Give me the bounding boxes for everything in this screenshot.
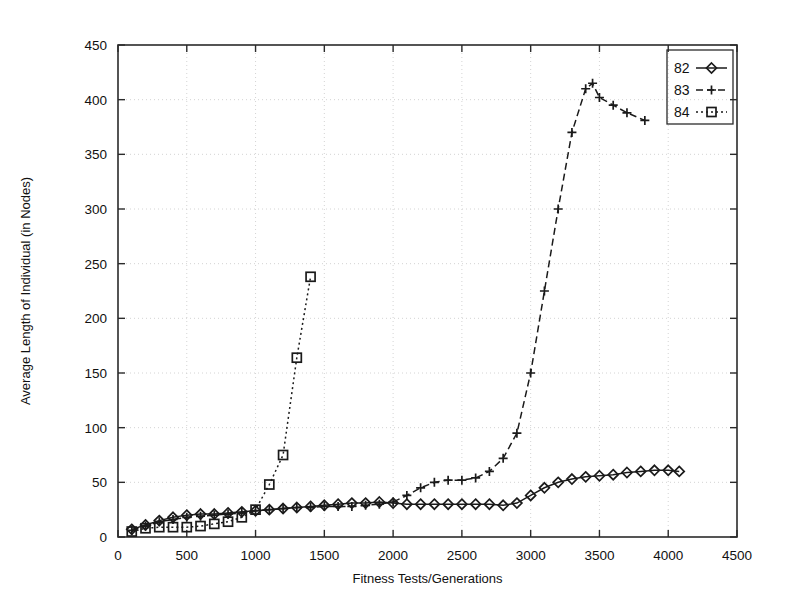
x-tick-label: 4000 xyxy=(653,548,683,563)
legend-label-83: 83 xyxy=(674,82,690,98)
x-tick-label: 0 xyxy=(114,548,122,563)
y-tick-label: 250 xyxy=(84,257,107,272)
y-axis-label: Average Length of Individual (in Nodes) xyxy=(18,177,33,405)
y-tick-label: 0 xyxy=(99,530,107,545)
y-tick-label: 350 xyxy=(84,147,107,162)
y-tick-label: 400 xyxy=(84,93,107,108)
y-tick-label: 200 xyxy=(84,311,107,326)
x-tick-label: 3500 xyxy=(584,548,614,563)
y-tick-label: 300 xyxy=(84,202,107,217)
legend-label-84: 84 xyxy=(674,104,690,120)
y-tick-label: 50 xyxy=(92,475,107,490)
x-tick-label: 1500 xyxy=(309,548,339,563)
x-tick-label: 1000 xyxy=(241,548,271,563)
x-tick-label: 500 xyxy=(176,548,199,563)
x-axis-label: Fitness Tests/Generations xyxy=(352,571,503,586)
y-tick-label: 150 xyxy=(84,366,107,381)
x-tick-label: 4500 xyxy=(722,548,752,563)
y-tick-label: 100 xyxy=(84,421,107,436)
legend-label-82: 82 xyxy=(674,60,690,76)
x-tick-label: 2500 xyxy=(447,548,477,563)
x-tick-label: 3000 xyxy=(516,548,546,563)
y-tick-label: 450 xyxy=(84,38,107,53)
chart-figure: 0500100015002000250030003500400045000501… xyxy=(0,0,792,610)
x-tick-label: 2000 xyxy=(378,548,408,563)
